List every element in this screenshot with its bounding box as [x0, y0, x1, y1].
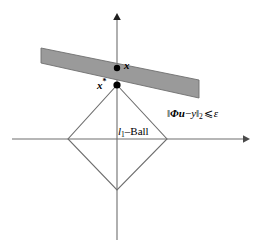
constraint-relation: ⩽	[203, 107, 214, 119]
constraint-epsilon: ε	[214, 107, 218, 119]
point-x-star-marker	[113, 81, 120, 88]
constraint-slab-shape	[41, 48, 199, 98]
point-x-marker	[114, 65, 120, 71]
figure-canvas: x x* l1–Ball ‖Φu−y‖2⩽ε	[0, 0, 263, 247]
point-x-star-label-superscript: *	[103, 77, 107, 86]
point-x-label: x	[124, 60, 130, 71]
constraint-operator: Φu	[170, 107, 185, 119]
l1-ball-label-suffix: –Ball	[125, 125, 149, 137]
constraint-label: ‖Φu−y‖2⩽ε	[167, 108, 218, 119]
vertical-axis-arrowhead	[113, 13, 121, 20]
diagram-svg	[0, 0, 263, 247]
horizontal-axis-arrowhead	[243, 135, 250, 143]
l1-ball-label-subscript: 1	[121, 130, 125, 139]
l1-ball-label: l1–Ball	[118, 126, 149, 137]
point-x-star-label: x*	[97, 78, 107, 91]
constraint-norm-subscript: 2	[199, 112, 203, 121]
